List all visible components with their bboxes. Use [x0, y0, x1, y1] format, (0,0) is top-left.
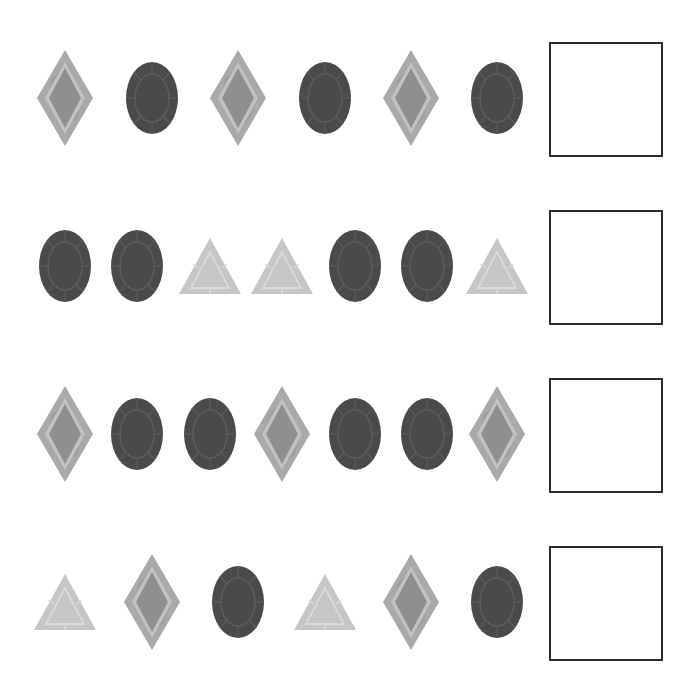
diamond-gem-icon: [35, 384, 95, 484]
diamond-gem-icon: [467, 384, 527, 484]
oval-gem-icon: [325, 384, 385, 484]
diamond-gem-icon: [381, 552, 441, 652]
diamond-gem-icon: [122, 552, 182, 652]
triangle-gem-icon: [249, 216, 315, 316]
diamond-gem-icon: [35, 48, 95, 148]
oval-gem-icon: [397, 216, 457, 316]
oval-gem-icon: [208, 552, 268, 652]
answer-box-2[interactable]: [549, 210, 663, 325]
triangle-gem-icon: [464, 216, 530, 316]
oval-gem-icon: [467, 48, 527, 148]
oval-gem-icon: [467, 552, 527, 652]
oval-gem-icon: [107, 384, 167, 484]
oval-gem-icon: [180, 384, 240, 484]
answer-box-1[interactable]: [549, 42, 663, 157]
oval-gem-icon: [397, 384, 457, 484]
diamond-gem-icon: [208, 48, 268, 148]
triangle-gem-icon: [177, 216, 243, 316]
oval-gem-icon: [295, 48, 355, 148]
oval-gem-icon: [107, 216, 167, 316]
triangle-gem-icon: [32, 552, 98, 652]
oval-gem-icon: [35, 216, 95, 316]
oval-gem-icon: [325, 216, 385, 316]
triangle-gem-icon: [292, 552, 358, 652]
oval-gem-icon: [122, 48, 182, 148]
diamond-gem-icon: [381, 48, 441, 148]
answer-box-3[interactable]: [549, 378, 663, 493]
answer-box-4[interactable]: [549, 546, 663, 661]
diamond-gem-icon: [252, 384, 312, 484]
